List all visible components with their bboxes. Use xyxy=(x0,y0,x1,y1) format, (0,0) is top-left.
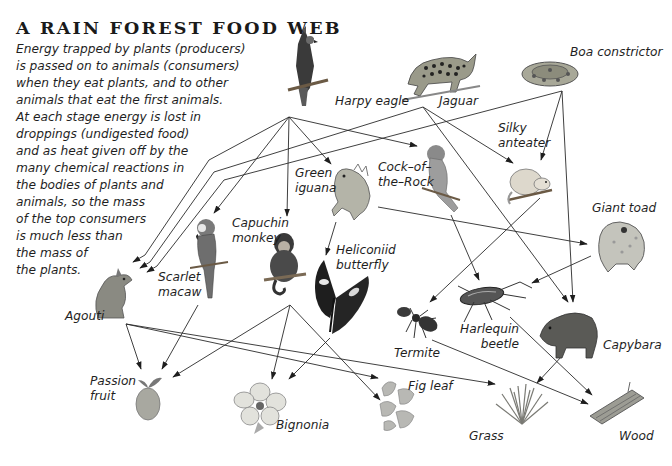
label-harpy-eagle: Harpy eagle xyxy=(335,94,409,109)
eagle-icon xyxy=(280,26,330,110)
arrow-harpy-eagle-to-capuchin-monkey xyxy=(287,117,289,216)
arrow-capuchin-to-bignonia xyxy=(272,305,290,379)
grass-icon xyxy=(492,384,552,426)
wood-icon xyxy=(588,382,648,428)
arrow-cock-of-the-rock-to-beetle xyxy=(451,215,479,280)
arrow-capuchin-to-passion-fruit xyxy=(173,305,290,377)
beetle-icon xyxy=(450,276,534,326)
arrow-macaw-to-passion-fruit xyxy=(162,305,198,369)
intro-line: animals, so the mass xyxy=(16,194,221,211)
arrow-capybara-to-grass xyxy=(537,356,562,383)
capybara-icon xyxy=(536,306,600,360)
label-agouti: Agouti xyxy=(65,309,104,324)
toad-icon xyxy=(594,218,650,274)
label-silky-anteater: Silky anteater xyxy=(498,121,550,151)
label-bignonia: Bignonia xyxy=(276,418,329,433)
intro-line: the bodies of plants and xyxy=(16,177,221,194)
label-termite: Termite xyxy=(394,346,440,361)
intro-line: At each stage energy is lost in xyxy=(16,109,221,126)
label-giant-toad: Giant toad xyxy=(592,201,656,216)
arrow-boa-to-capybara xyxy=(562,91,573,302)
arrow-agouti-to-passion-fruit xyxy=(126,324,141,369)
arrow-butterfly-to-bignonia xyxy=(289,338,330,379)
intro-line: Energy trapped by plants (producers) xyxy=(16,41,221,58)
label-green-iguana: Green iguana xyxy=(295,166,337,196)
label-cock-of-the-rock: Cock–of– the–Rock xyxy=(378,160,434,190)
fruit-icon xyxy=(132,374,166,422)
label-scarlet-macaw: Scarlet macaw xyxy=(158,270,201,300)
food-web-diagram: A RAIN FOREST FOOD WEB Energy trapped by… xyxy=(0,0,672,466)
label-grass: Grass xyxy=(469,429,504,444)
intro-line: and as heat given off by the xyxy=(16,143,221,160)
label-fig-leaf: Fig leaf xyxy=(408,379,453,394)
arrow-harpy-eagle-to-scarlet-macaw xyxy=(214,117,289,213)
intro-line: is passed on to animals (consumers) xyxy=(16,58,221,75)
intro-line: animals that eat the first animals. xyxy=(16,92,221,109)
arrow-harpy-eagle-to-cock-of-the-rock xyxy=(289,117,417,146)
snake-icon xyxy=(520,56,580,88)
anteater-icon xyxy=(502,160,556,206)
label-passion-fruit: Passion fruit xyxy=(90,374,136,404)
label-boa-constrictor: Boa constrictor xyxy=(570,45,663,60)
label-heliconiid-butterfly: Heliconiid butterfly xyxy=(336,243,396,273)
intro-line: when they eat plants, and to other xyxy=(16,75,221,92)
intro-line: many chemical reactions in xyxy=(16,160,221,177)
label-capuchin-monkey: Capuchin monkey xyxy=(232,216,289,246)
label-harlequin-beetle: Harlequin beetle xyxy=(460,322,519,352)
label-wood: Wood xyxy=(619,429,654,444)
label-jaguar: Jaguar xyxy=(439,94,478,109)
label-capybara: Capybara xyxy=(603,338,662,353)
arrow-iguana-to-butterfly xyxy=(326,222,336,255)
intro-line: droppings (undigested food) xyxy=(16,126,221,143)
arrow-toad-to-beetle xyxy=(532,256,591,283)
arrow-iguana-to-giant-toad xyxy=(378,207,587,244)
termite-icon xyxy=(392,300,442,340)
